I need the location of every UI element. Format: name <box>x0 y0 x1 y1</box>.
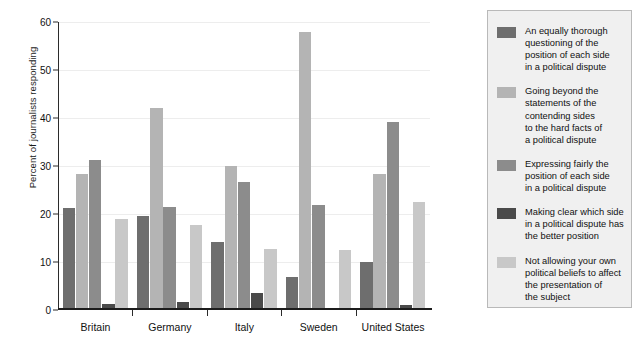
bar <box>299 32 312 310</box>
bar <box>312 205 325 310</box>
bar <box>63 208 76 310</box>
bar <box>373 174 386 310</box>
x-tick-label: Germany <box>148 321 191 333</box>
gridline <box>58 166 430 167</box>
y-tick-label: 60 <box>40 17 51 28</box>
legend-item[interactable]: Going beyond thestatements of thecontend… <box>497 85 629 145</box>
bar <box>115 219 128 310</box>
x-tick-label: United States <box>362 321 425 333</box>
gridline <box>58 70 430 71</box>
bar <box>413 202 426 310</box>
gridline <box>58 118 430 119</box>
legend-swatch <box>497 208 516 219</box>
x-tick-mark <box>281 310 282 316</box>
x-tick-label: Italy <box>235 321 254 333</box>
x-tick-mark <box>356 310 357 316</box>
legend-label: An equally thoroughquestioning of thepos… <box>525 25 610 73</box>
bar <box>387 122 400 310</box>
legend-swatch <box>497 27 516 38</box>
legend-label: Going beyond thestatements of thecontend… <box>525 85 602 145</box>
legend-label: Making clear which sidein a political di… <box>525 206 624 242</box>
x-tick-label: Britain <box>81 321 111 333</box>
legend-label: Expressing fairly theposition of each si… <box>525 158 610 194</box>
bar <box>264 249 277 310</box>
chart-legend: An equally thoroughquestioning of thepos… <box>487 10 632 308</box>
legend-label: Not allowing your ownpolitical beliefs t… <box>525 255 621 303</box>
chart-figure: Percent of journalists responding 010203… <box>0 0 642 346</box>
bar <box>163 207 176 310</box>
x-tick-mark <box>132 310 133 316</box>
bar <box>150 108 163 310</box>
bar <box>137 216 150 310</box>
y-tick-label: 50 <box>40 65 51 76</box>
y-tick-label: 40 <box>40 113 51 124</box>
bar <box>339 250 352 310</box>
gridline <box>58 22 430 23</box>
x-tick-mark <box>207 310 208 316</box>
bar <box>190 225 203 310</box>
bar <box>286 277 299 310</box>
y-tick-label: 10 <box>40 257 51 268</box>
legend-item[interactable]: An equally thoroughquestioning of thepos… <box>497 25 629 73</box>
bar <box>238 182 251 310</box>
bar <box>211 242 224 310</box>
x-axis-line <box>58 308 432 310</box>
y-tick-label: 20 <box>40 209 51 220</box>
plot-inner: 0102030405060 BritainGermanyItalySwedenU… <box>58 22 430 310</box>
y-axis-line <box>58 22 59 310</box>
bar <box>360 262 373 310</box>
bar <box>76 174 89 310</box>
plot-area: 0102030405060 BritainGermanyItalySwedenU… <box>58 22 430 310</box>
y-tick-label: 0 <box>45 305 51 316</box>
legend-item[interactable]: Not allowing your ownpolitical beliefs t… <box>497 255 629 303</box>
legend-item[interactable]: Expressing fairly theposition of each si… <box>497 158 629 194</box>
x-tick-label: Sweden <box>300 321 338 333</box>
bar <box>89 160 102 310</box>
legend-swatch <box>497 257 516 268</box>
y-axis-title: Percent of journalists responding <box>27 0 38 238</box>
y-tick-label: 30 <box>40 161 51 172</box>
legend-swatch <box>497 87 516 98</box>
bar <box>225 166 238 310</box>
legend-swatch <box>497 160 516 171</box>
legend-item[interactable]: Making clear which sidein a political di… <box>497 206 629 242</box>
